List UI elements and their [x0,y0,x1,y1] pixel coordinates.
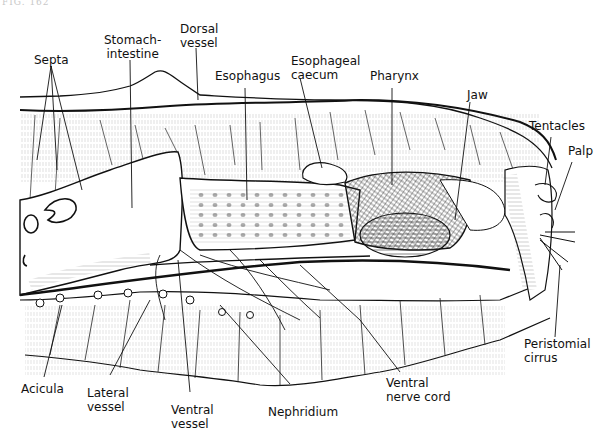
label-peristomial-cirrus-line2: cirrus [524,351,590,365]
label-dorsal-vessel-line2: vessel [180,36,218,50]
label-stomach-intestine-line2: intestine [104,47,161,61]
label-nephridium: Nephridium [268,405,338,419]
label-jaw: Jaw [467,88,488,102]
label-dorsal-vessel-line1: Dorsal [180,22,218,36]
anatomy-figure: FIG. 162 [0,0,609,441]
label-acicula: Acicula [21,382,64,396]
label-ventral-nerve-cord-line2: nerve cord [386,390,451,404]
label-ventral-vessel: Ventral vessel [171,403,214,431]
label-tentacles: Tentacles [529,119,585,133]
label-stomach-intestine-line1: Stomach- [104,33,161,47]
label-lateral-vessel-line1: Lateral [87,386,129,400]
label-ventral-nerve-cord-line1: Ventral [386,376,451,390]
label-lateral-vessel-line2: vessel [87,400,129,414]
label-ventral-vessel-line1: Ventral [171,403,214,417]
body-wall-shading [20,112,540,182]
label-peristomial-cirrus: Peristomial cirrus [524,337,590,365]
label-dorsal-vessel: Dorsal vessel [180,22,218,50]
label-lateral-vessel: Lateral vessel [87,386,129,414]
label-esophageal-caecum-line1: Esophageal [291,54,360,68]
label-esophageal-caecum-line2: caecum [291,68,360,82]
label-esophageal-caecum: Esophageal caecum [291,54,360,82]
ventral-shading [25,305,505,375]
label-ventral-vessel-line2: vessel [171,417,214,431]
label-ventral-nerve-cord: Ventral nerve cord [386,376,451,404]
label-esophagus: Esophagus [215,69,280,83]
label-palp: Palp [568,144,593,158]
label-peristomial-cirrus-line1: Peristomial [524,337,590,351]
label-stomach-intestine: Stomach- intestine [104,33,161,61]
label-pharynx: Pharynx [370,69,419,83]
label-septa: Septa [34,53,69,67]
